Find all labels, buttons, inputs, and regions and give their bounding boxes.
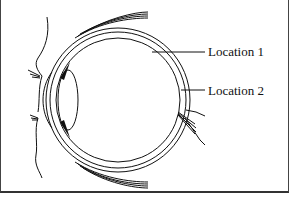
label-location-1: Location 1 — [208, 44, 264, 60]
label-location-2: Location 2 — [208, 83, 264, 99]
retina — [56, 38, 180, 162]
eye-diagram — [0, 0, 289, 201]
lens — [58, 70, 78, 130]
sclera-outer — [46, 28, 190, 172]
